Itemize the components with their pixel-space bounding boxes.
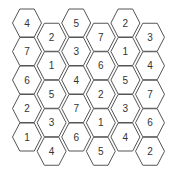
hex-cell: 4 — [136, 52, 165, 80]
hex-cell: 6 — [13, 66, 42, 94]
hex-number: 6 — [98, 60, 104, 71]
hex-number: 7 — [24, 46, 30, 57]
hex-cell: 3 — [111, 95, 140, 123]
hex-number: 2 — [24, 103, 30, 114]
hex-cell: 4 — [37, 137, 66, 165]
hex-number: 4 — [24, 18, 30, 29]
hex-number: 2 — [123, 18, 129, 29]
hex-number: 6 — [24, 75, 30, 86]
hex-cell: 6 — [136, 109, 165, 137]
hex-number: 4 — [49, 146, 55, 157]
hex-number: 4 — [147, 60, 153, 71]
hex-number: 4 — [73, 75, 79, 86]
hex-number: 5 — [98, 146, 104, 157]
hex-number: 2 — [147, 146, 153, 157]
hex-number: 1 — [49, 60, 55, 71]
hex-cell: 6 — [86, 52, 115, 80]
hex-cell: 5 — [37, 80, 66, 108]
hex-cell: 6 — [62, 123, 91, 151]
hex-number: 3 — [123, 103, 129, 114]
hex-cell: 2 — [86, 80, 115, 108]
hex-number: 7 — [98, 32, 104, 43]
hex-cell: 7 — [62, 95, 91, 123]
hex-number: 5 — [73, 18, 79, 29]
hex-number: 2 — [98, 89, 104, 100]
hex-number: 3 — [147, 32, 153, 43]
hex-grid: 476212153453476762152153434762 — [0, 0, 174, 177]
hex-cell: 5 — [62, 9, 91, 37]
hex-cell: 3 — [136, 23, 165, 51]
hex-number: 1 — [24, 132, 30, 143]
hex-cell: 7 — [13, 38, 42, 66]
hex-number: 5 — [123, 75, 129, 86]
hex-cell: 3 — [37, 109, 66, 137]
hex-cell: 4 — [13, 9, 42, 37]
hex-cell: 2 — [13, 95, 42, 123]
hex-cell: 1 — [37, 52, 66, 80]
hex-number: 7 — [147, 89, 153, 100]
hex-number: 4 — [123, 132, 129, 143]
hex-number: 6 — [73, 132, 79, 143]
hex-number: 6 — [147, 117, 153, 128]
hex-cell: 7 — [86, 23, 115, 51]
hex-cell: 5 — [111, 66, 140, 94]
hex-number: 1 — [123, 46, 129, 57]
hex-number: 5 — [49, 89, 55, 100]
hex-number: 3 — [73, 46, 79, 57]
hex-cell: 4 — [62, 66, 91, 94]
hex-number: 7 — [73, 103, 79, 114]
hex-number: 1 — [98, 117, 104, 128]
hex-cell: 1 — [111, 38, 140, 66]
hex-cell: 5 — [86, 137, 115, 165]
hex-cell: 4 — [111, 123, 140, 151]
hex-cell: 1 — [86, 109, 115, 137]
hex-cell: 1 — [13, 123, 42, 151]
hex-cell: 3 — [62, 38, 91, 66]
hex-cell: 2 — [111, 9, 140, 37]
hex-cell: 2 — [37, 23, 66, 51]
hex-number: 3 — [49, 117, 55, 128]
hex-cell: 2 — [136, 137, 165, 165]
hex-number: 2 — [49, 32, 55, 43]
hex-cell: 7 — [136, 80, 165, 108]
